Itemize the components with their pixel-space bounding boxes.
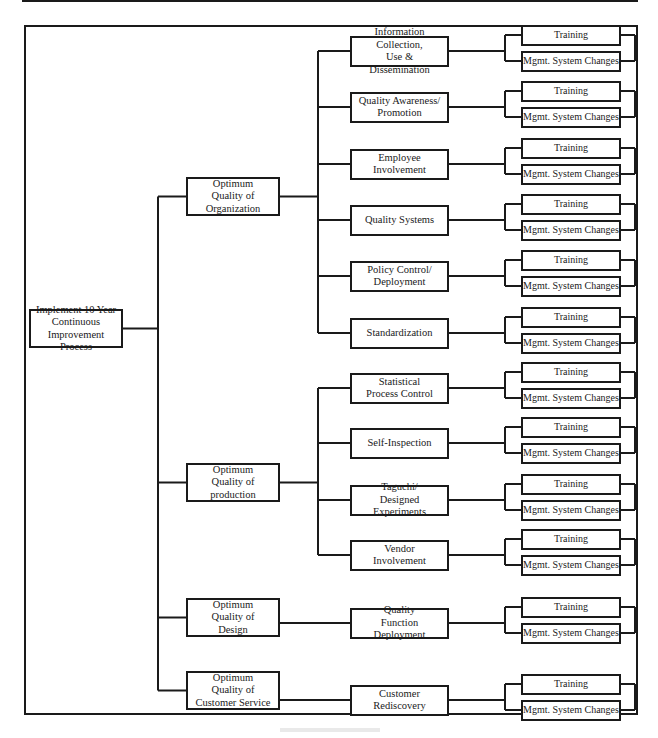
training-node: Training [521, 81, 621, 102]
branch-node: Optimum Quality of Design [186, 598, 280, 637]
sub-node: Quality Systems [350, 205, 449, 236]
sub-node-label: Employee Involvement [373, 152, 426, 177]
sub-node: Information Collection, Use & Disseminat… [350, 36, 449, 67]
mgmt-system-changes-node: Mgmt. System Changes [521, 555, 621, 576]
sub-node-label: Quality Systems [365, 214, 434, 227]
branch-node-label: Optimum Quality of Organization [206, 178, 261, 216]
training-node-label: Training [554, 601, 588, 613]
mgmt-system-changes-node: Mgmt. System Changes [521, 51, 621, 72]
sub-node-label: Statistical Process Control [366, 376, 433, 401]
training-node-label: Training [554, 254, 588, 266]
training-node-label: Training [554, 85, 588, 97]
sub-node: Policy Control/ Deployment [350, 261, 449, 292]
mgmt-system-changes-node-label: Mgmt. System Changes [523, 392, 619, 404]
mgmt-system-changes-node-label: Mgmt. System Changes [523, 224, 619, 236]
sub-node-label: Policy Control/ Deployment [367, 264, 431, 289]
sub-node-label: Self-Inspection [367, 437, 431, 450]
sub-node-label: Quality Function Deployment [355, 604, 444, 642]
sub-node-label: Standardization [367, 327, 433, 340]
mgmt-system-changes-node: Mgmt. System Changes [521, 333, 621, 354]
sub-node-label: Taguchi/ Designed Experiments [355, 481, 444, 519]
training-node: Training [521, 25, 621, 46]
mgmt-system-changes-node-label: Mgmt. System Changes [523, 280, 619, 292]
training-node: Training [521, 194, 621, 215]
training-node-label: Training [554, 533, 588, 545]
mgmt-system-changes-node-label: Mgmt. System Changes [523, 55, 619, 67]
mgmt-system-changes-node: Mgmt. System Changes [521, 388, 621, 409]
training-node: Training [521, 250, 621, 271]
training-node: Training [521, 529, 621, 550]
training-node: Training [521, 138, 621, 159]
branch-node-label: Optimum Quality of Customer Service [196, 672, 271, 710]
branch-node: Optimum Quality of Organization [186, 177, 280, 216]
branch-node: Optimum Quality of production [186, 463, 280, 502]
mgmt-system-changes-node-label: Mgmt. System Changes [523, 627, 619, 639]
branch-node: Optimum Quality of Customer Service [186, 671, 280, 710]
mgmt-system-changes-node-label: Mgmt. System Changes [523, 447, 619, 459]
training-node-label: Training [554, 198, 588, 210]
root-node: Implement 10 Year Continuous Improvement… [29, 309, 123, 348]
training-node: Training [521, 474, 621, 495]
sub-node: Quality Awareness/ Promotion [350, 92, 449, 123]
training-node-label: Training [554, 678, 588, 690]
sub-node-label: Quality Awareness/ Promotion [359, 95, 441, 120]
training-node-label: Training [554, 478, 588, 490]
sub-node-label: Vendor Involvement [373, 543, 426, 568]
mgmt-system-changes-node: Mgmt. System Changes [521, 623, 621, 644]
mgmt-system-changes-node: Mgmt. System Changes [521, 107, 621, 128]
training-node: Training [521, 307, 621, 328]
mgmt-system-changes-node-label: Mgmt. System Changes [523, 337, 619, 349]
mgmt-system-changes-node-label: Mgmt. System Changes [523, 111, 619, 123]
mgmt-system-changes-node-label: Mgmt. System Changes [523, 504, 619, 516]
sub-node-label: Information Collection, Use & Disseminat… [355, 26, 444, 76]
training-node-label: Training [554, 29, 588, 41]
sub-node: Statistical Process Control [350, 373, 449, 404]
sub-node: Self-Inspection [350, 428, 449, 459]
branch-node-label: Optimum Quality of production [210, 464, 256, 502]
mgmt-system-changes-node: Mgmt. System Changes [521, 500, 621, 521]
training-node-label: Training [554, 421, 588, 433]
sub-node-label: Customer Rediscovery [373, 688, 426, 713]
mgmt-system-changes-node: Mgmt. System Changes [521, 443, 621, 464]
sub-node: Employee Involvement [350, 149, 449, 180]
mgmt-system-changes-node: Mgmt. System Changes [521, 164, 621, 185]
sub-node: Customer Rediscovery [350, 685, 449, 716]
sub-node: Standardization [350, 318, 449, 349]
branch-node-label: Optimum Quality of Design [212, 599, 255, 637]
sub-node: Vendor Involvement [350, 540, 449, 571]
sub-node: Quality Function Deployment [350, 608, 449, 639]
training-node-label: Training [554, 366, 588, 378]
training-node: Training [521, 417, 621, 438]
training-node-label: Training [554, 142, 588, 154]
mgmt-system-changes-node: Mgmt. System Changes [521, 700, 621, 721]
sub-node: Taguchi/ Designed Experiments [350, 485, 449, 516]
root-node-label: Implement 10 Year Continuous Improvement… [34, 304, 118, 354]
mgmt-system-changes-node: Mgmt. System Changes [521, 220, 621, 241]
training-node: Training [521, 597, 621, 618]
mgmt-system-changes-node: Mgmt. System Changes [521, 276, 621, 297]
training-node: Training [521, 674, 621, 695]
mgmt-system-changes-node-label: Mgmt. System Changes [523, 704, 619, 716]
mgmt-system-changes-node-label: Mgmt. System Changes [523, 168, 619, 180]
training-node-label: Training [554, 311, 588, 323]
figure-caption-illegible [280, 728, 380, 732]
mgmt-system-changes-node-label: Mgmt. System Changes [523, 559, 619, 571]
training-node: Training [521, 362, 621, 383]
